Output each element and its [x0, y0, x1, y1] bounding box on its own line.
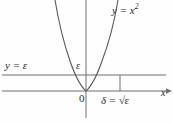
- x-axis-arrowhead: [166, 88, 172, 94]
- delta-label: δ = √ε: [101, 95, 129, 106]
- curve-equation-label: y = x2: [112, 3, 138, 16]
- exponent: 2: [135, 2, 139, 11]
- delta-radical-text: √ε: [119, 94, 129, 106]
- delta-label-text: δ =: [101, 94, 119, 106]
- epsilon-axis-tick-label: ε: [76, 61, 80, 71]
- epsilon-delta-parabola-figure: y = x2 y = ε ε 0 δ = √ε x: [0, 0, 173, 123]
- origin-label: 0: [79, 93, 85, 104]
- x-axis-label: x: [161, 88, 165, 98]
- epsilon-line-label: y = ε: [5, 60, 27, 71]
